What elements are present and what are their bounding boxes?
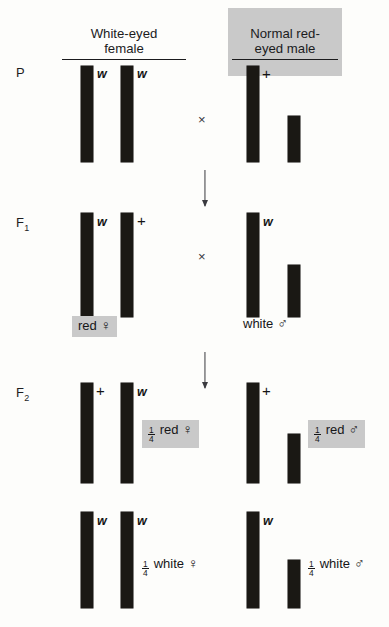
male-symbol: ♂	[354, 556, 365, 570]
f2-white-male-allele-w: w	[263, 515, 273, 528]
p-female-chromosome-x2	[121, 66, 133, 162]
f1-male-chromosome-y	[288, 265, 300, 317]
header-white-eyed-female-text: White-eyed female	[91, 26, 158, 57]
generation-label-f2-main: F	[16, 385, 24, 400]
f2-white-female-allele-2: w	[137, 515, 147, 528]
f2-white-female-allele-1: w	[97, 515, 107, 528]
male-symbol: ♂	[277, 316, 288, 330]
female-symbol: ♀	[101, 318, 112, 332]
fraction-denominator: 4	[148, 434, 155, 443]
arrow-head	[202, 200, 208, 207]
generation-label-f2-sub: 2	[24, 393, 29, 403]
f2-red-male-allele-plus: +	[262, 383, 271, 398]
f2-red-male-chromosome-y	[288, 434, 300, 483]
header-female-underline	[62, 59, 186, 60]
f1-male-allele-w: w	[263, 216, 273, 229]
phenotype-f1-red-female: red ♀	[72, 316, 117, 337]
p-male-chromosome-x	[247, 66, 259, 162]
p-female-chromosome-x1	[81, 66, 93, 162]
p-male-chromosome-y	[288, 116, 300, 162]
generation-label-f2: F2	[16, 385, 29, 403]
f2-white-male-chromosome-x	[247, 512, 259, 608]
f2-red-female-allele-1: +	[96, 383, 105, 398]
fraction-numerator: 1	[142, 560, 149, 568]
arrow-p-to-f1	[198, 170, 212, 206]
phenotype-f2-red-female-text: red	[160, 422, 179, 438]
fraction-numerator: 1	[314, 426, 321, 434]
f2-red-female-chromosome-x2	[121, 383, 133, 483]
phenotype-f1-white-male: white ♂	[243, 316, 288, 332]
p-female-allele-1: w	[97, 68, 107, 81]
fraction-one-quarter: 1 4	[148, 426, 155, 444]
phenotype-f2-red-female: 1 4 red ♀	[142, 420, 199, 448]
fraction-denominator: 4	[308, 568, 315, 577]
arrow-f1-to-f2	[198, 352, 212, 388]
fraction-denominator: 4	[314, 434, 321, 443]
header-male-underline	[232, 59, 338, 60]
f1-female-chromosome-x1	[81, 213, 93, 317]
generation-label-p: P	[16, 65, 25, 80]
phenotype-f1-white-male-text: white	[243, 316, 273, 332]
phenotype-f2-white-male: 1 4 white ♂	[308, 556, 365, 579]
f1-male-chromosome-x	[247, 213, 259, 317]
genetics-cross-diagram: White-eyed female Normal red- eyed male …	[0, 0, 389, 627]
phenotype-f2-red-male: 1 4 red ♂	[308, 420, 365, 448]
phenotype-f2-white-female-text: white	[154, 556, 184, 572]
f1-female-allele-1: w	[97, 216, 107, 229]
f2-white-male-chromosome-y	[288, 560, 300, 608]
f1-female-allele-2: +	[137, 213, 146, 228]
f1-female-chromosome-x2	[121, 213, 133, 317]
p-female-allele-2: w	[137, 68, 147, 81]
generation-label-f1-sub: 1	[24, 223, 29, 233]
f2-red-female-allele-2: w	[137, 386, 147, 399]
f2-red-female-chromosome-x1	[81, 383, 93, 483]
female-symbol: ♀	[188, 556, 199, 570]
phenotype-f1-red-female-text: red	[78, 318, 97, 334]
phenotype-f2-white-male-text: white	[320, 556, 350, 572]
fraction-one-quarter: 1 4	[142, 560, 149, 578]
cross-symbol-f1: ×	[198, 250, 206, 263]
fraction-one-quarter: 1 4	[314, 426, 321, 444]
f2-red-male-chromosome-x	[247, 383, 259, 483]
female-symbol: ♀	[182, 422, 193, 436]
f2-white-female-chromosome-x2	[121, 512, 133, 608]
arrow-head	[202, 382, 208, 389]
phenotype-f2-red-male-text: red	[326, 422, 345, 438]
generation-label-f1-main: F	[16, 215, 24, 230]
p-male-allele-plus: +	[262, 66, 271, 81]
f2-white-female-chromosome-x1	[81, 512, 93, 608]
fraction-denominator: 4	[142, 568, 149, 577]
header-normal-red-eyed-male: Normal red- eyed male	[228, 8, 342, 76]
header-normal-red-eyed-male-text: Normal red- eyed male	[250, 26, 320, 57]
male-symbol: ♂	[348, 422, 359, 436]
fraction-numerator: 1	[308, 560, 315, 568]
generation-label-f1: F1	[16, 215, 29, 233]
cross-symbol-p: ×	[198, 113, 206, 126]
fraction-numerator: 1	[148, 426, 155, 434]
phenotype-f2-white-female: 1 4 white ♀	[142, 556, 199, 579]
fraction-one-quarter: 1 4	[308, 560, 315, 578]
